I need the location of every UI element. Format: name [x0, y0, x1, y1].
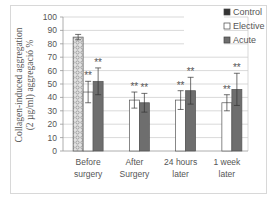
y-axis-label: Collagen-induced aggregation (2 µg/ml) a…: [14, 27, 36, 142]
legend-swatch-control: [224, 9, 230, 15]
x-axis-categories: BeforesurgeryAfterSurgery24 hourslater1 …: [74, 157, 241, 179]
significance-marker: **: [177, 80, 185, 91]
x-category-label: later: [219, 169, 236, 179]
y-tick-label: 30: [48, 106, 58, 116]
y-tick-label: 0: [52, 146, 57, 156]
x-category-label: Before: [76, 157, 101, 167]
x-category-label: Surgery: [119, 169, 150, 179]
significance-marker: **: [94, 57, 102, 68]
x-category-label: later: [172, 169, 189, 179]
significance-marker: **: [187, 66, 195, 77]
y-tick-label: 20: [48, 119, 58, 129]
y-tick-label: 80: [48, 39, 58, 49]
bar-control: [73, 37, 83, 151]
y-tick-label: 70: [48, 52, 58, 62]
legend-label: Elective: [233, 21, 265, 31]
bar-chart: Collagen-induced aggregation (2 µg/ml) a…: [0, 0, 272, 201]
legend-label: Control: [233, 7, 262, 17]
y-tick-label: 10: [48, 133, 58, 143]
significance-marker: **: [84, 70, 92, 81]
legend-label: Acute: [233, 35, 256, 45]
bars: ****************: [73, 34, 242, 151]
legend-swatch-elective: [224, 23, 230, 29]
significance-marker: **: [140, 82, 148, 93]
y-tick-label: 90: [48, 25, 58, 35]
significance-marker: **: [130, 81, 138, 92]
x-category-label: After: [125, 157, 143, 167]
legend-swatch-acute: [224, 37, 230, 43]
y-tick-label: 50: [48, 79, 58, 89]
legend: ControlElectiveAcute: [184, 7, 265, 47]
y-axis-label-line2: (2 µg/ml) aggregació %: [25, 40, 36, 131]
y-tick-label: 40: [48, 92, 58, 102]
x-category-label: 1 week: [213, 157, 241, 167]
y-axis-label-line1: Collagen-induced aggregation: [14, 27, 24, 142]
x-category-label: 24 hours: [164, 157, 197, 167]
x-category-label: surgery: [74, 169, 103, 179]
significance-marker: **: [223, 84, 231, 95]
significance-marker: **: [233, 62, 241, 73]
y-tick-label: 100: [43, 12, 57, 22]
y-tick-label: 60: [48, 66, 58, 76]
